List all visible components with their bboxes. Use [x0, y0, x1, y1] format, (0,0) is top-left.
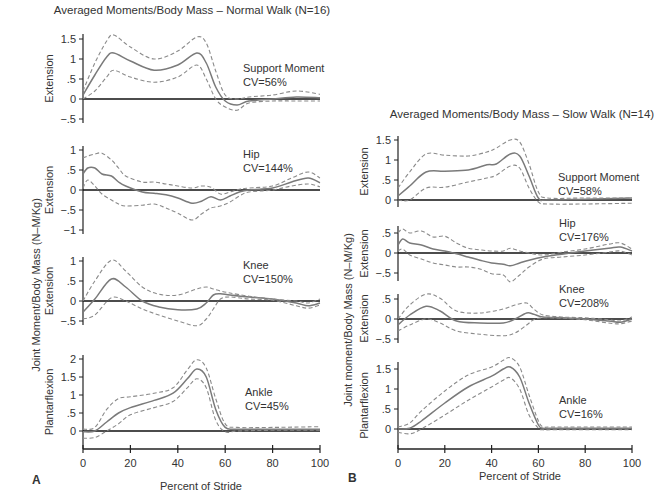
subplot-annotation: CV=16% — [559, 408, 603, 420]
subplot-ylabel: Plantarflexion — [358, 372, 370, 439]
subplot-ylabel: Extension — [358, 294, 370, 342]
subplot-annotation: Ankle — [245, 386, 273, 398]
subplot-a-ankle: 21.51.50PlantarflexionAnkleCV=45% — [43, 353, 320, 449]
panel-b-x-axis: 020406080100 — [395, 445, 641, 469]
subplot-annotation: Knee — [243, 259, 269, 271]
subplot-ylabel: Extension — [358, 147, 370, 195]
y-tick-label: 1.5 — [61, 371, 76, 383]
y-tick-label: 2 — [70, 353, 76, 365]
subplot-ylabel: Extension — [358, 229, 370, 277]
y-tick-label: 1.5 — [61, 33, 76, 45]
x-tick-label: 80 — [579, 457, 591, 469]
y-tick-label: .5 — [67, 407, 76, 419]
y-tick-label: 0 — [385, 313, 391, 325]
x-tick-label: 40 — [485, 457, 497, 469]
y-tick-label: 0 — [70, 295, 76, 307]
y-tick-label: 0 — [385, 194, 391, 206]
subplot-annotation: CV=208% — [559, 297, 609, 309]
subplot-ylabel: Extension — [43, 54, 55, 102]
panel-b-xlabel: Percent of Stride — [479, 470, 561, 482]
subplot-annotation: CV=58% — [558, 185, 602, 197]
x-tick-label: 0 — [395, 457, 401, 469]
subplot-annotation: CV=45% — [245, 400, 289, 412]
subplot-annotation: CV=176% — [559, 231, 609, 243]
y-tick-label: −.5 — [375, 267, 391, 279]
subplot-annotation: Support Moment — [243, 62, 324, 74]
subplot-b-ankle: 1.51.50PlantarflexionAnkleCV=16% — [358, 357, 632, 449]
subplot-annotation: CV=144% — [243, 162, 293, 174]
subplot-annotation: CV=56% — [243, 76, 287, 88]
y-tick-label: 1.5 — [376, 363, 391, 375]
subplot-annotation: Support Moment — [558, 171, 639, 183]
x-tick-label: 40 — [172, 457, 184, 469]
y-tick-label: −.5 — [60, 204, 76, 216]
subplot-b-support-moment: 1.51.50ExtensionSupport MomentCV=58% — [358, 134, 639, 207]
panel-a-title: Averaged Moments/Body Mass – Normal Walk… — [54, 4, 331, 16]
y-tick-label: 0 — [70, 184, 76, 196]
y-tick-label: 1 — [70, 53, 76, 65]
subplot-a-hip: 1.50−.5−1ExtensionHipCV=144% — [43, 144, 320, 236]
y-tick-label: .5 — [67, 73, 76, 85]
x-tick-label: 0 — [80, 457, 86, 469]
y-tick-label: 0 — [385, 423, 391, 435]
subplot-annotation: Hip — [243, 148, 260, 160]
y-tick-label: 1.5 — [376, 134, 391, 146]
y-tick-label: −.5 — [375, 333, 391, 345]
y-tick-label: −1 — [63, 224, 76, 236]
panel-a-label: A — [32, 473, 41, 487]
x-tick-label: 100 — [623, 457, 641, 469]
x-tick-label: 100 — [311, 457, 329, 469]
sd-band-line — [398, 377, 632, 434]
x-tick-label: 80 — [266, 457, 278, 469]
subplot-annotation: Knee — [559, 283, 585, 295]
y-tick-label: 0 — [385, 247, 391, 259]
y-tick-label: .5 — [382, 403, 391, 415]
panel-a-ylabel: Joint Moment/Body Mass (N–M/Kg) — [30, 198, 42, 372]
y-tick-label: −.5 — [60, 315, 76, 327]
x-tick-label: 20 — [124, 457, 136, 469]
y-tick-label: 1 — [70, 389, 76, 401]
panel-a-xlabel: Percent of Stride — [160, 480, 242, 492]
subplot-annotation: Ankle — [559, 394, 587, 406]
y-tick-label: .5 — [67, 164, 76, 176]
subplot-annotation: CV=150% — [243, 273, 293, 285]
y-tick-label: 1 — [70, 255, 76, 267]
subplot-b-hip: .50−.5ExtensionHipCV=176% — [358, 217, 632, 282]
y-tick-label: .5 — [382, 293, 391, 305]
panel-a-x-axis: 020406080100 — [80, 445, 329, 469]
figure: Averaged Moments/Body Mass – Normal Walk… — [0, 0, 660, 493]
y-tick-label: 1 — [385, 383, 391, 395]
y-tick-label: .5 — [382, 227, 391, 239]
y-tick-label: −.5 — [60, 113, 76, 125]
subplot-ylabel: Plantarflexion — [43, 369, 55, 436]
y-tick-label: 0 — [70, 425, 76, 437]
y-tick-label: 1 — [385, 154, 391, 166]
y-tick-label: 1 — [70, 144, 76, 156]
panel-b-title: Averaged Moments/Body Mass – Slow Walk (… — [390, 108, 654, 120]
subplot-a-knee: 1.50−.5ExtensionKneeCV=150% — [43, 255, 320, 327]
panel-b-label: B — [348, 471, 357, 485]
panel-b-ylabel: Joint moment/Body Mass (N–M/Kg) — [342, 233, 354, 407]
subplot-annotation: Hip — [559, 217, 576, 229]
subplot-ylabel: Extension — [43, 166, 55, 214]
x-tick-label: 20 — [439, 457, 451, 469]
subplot-a-support-moment: 1.51.50−.5ExtensionSupport MomentCV=56% — [43, 33, 324, 125]
y-tick-label: .5 — [382, 174, 391, 186]
y-tick-label: 0 — [70, 93, 76, 105]
x-tick-label: 60 — [219, 457, 231, 469]
y-tick-label: .5 — [67, 275, 76, 287]
subplot-b-knee: .50−.5ExtensionKneeCV=208% — [358, 283, 632, 345]
x-tick-label: 60 — [532, 457, 544, 469]
subplot-ylabel: Extension — [43, 267, 55, 315]
